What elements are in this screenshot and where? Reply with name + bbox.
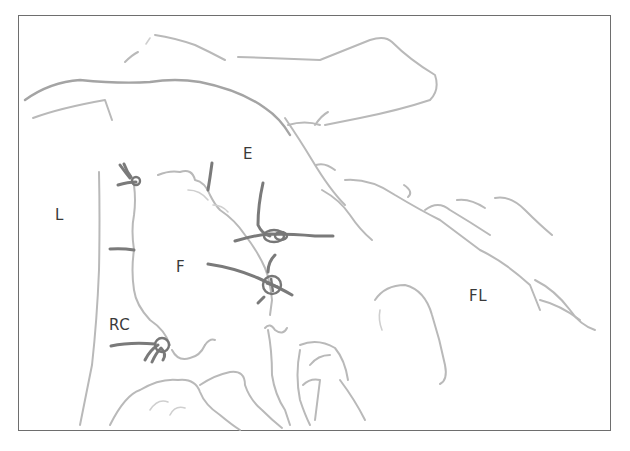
label-E: E: [243, 147, 253, 162]
label-RC: RC: [109, 318, 130, 333]
suture-top-left: [118, 164, 140, 185]
suture-left-mid: [110, 249, 134, 250]
right-diagonal-outlines: [316, 164, 595, 330]
lower-outlines: [110, 285, 446, 430]
upper-outlines: [25, 35, 437, 205]
label-F: F: [176, 260, 185, 275]
suture-center: [208, 255, 292, 303]
left-boundary: [80, 172, 100, 425]
central-structure: [133, 171, 273, 359]
label-FL: FL: [469, 289, 487, 304]
anatomical-illustration: [0, 0, 630, 451]
label-L: L: [55, 208, 64, 223]
suture-lower-left: [111, 338, 169, 362]
suture-upper-center: [208, 163, 333, 242]
